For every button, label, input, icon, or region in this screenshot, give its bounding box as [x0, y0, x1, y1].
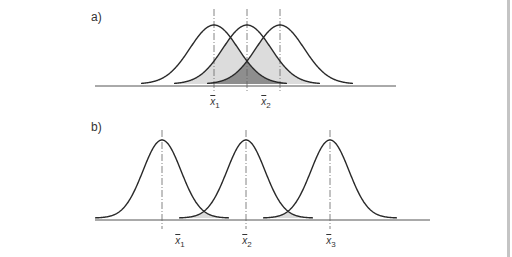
panel-b-separated-distributions	[95, 130, 430, 229]
distribution-overlap-figure	[0, 0, 512, 257]
mean-label-x-bar-2: x2	[242, 235, 251, 249]
mean-label-x-bar-3: x3	[326, 235, 335, 249]
panel-a-label: a)	[91, 10, 102, 24]
mean-label-x-bar-1: x1	[210, 96, 219, 110]
panel-b-label: b)	[91, 120, 102, 134]
mean-label-x-bar-1: x1	[175, 235, 184, 249]
page-edge-border	[507, 0, 510, 257]
mean-label-x-bar-2: x2	[261, 96, 270, 110]
panel-a-overlapping-distributions	[95, 9, 396, 93]
